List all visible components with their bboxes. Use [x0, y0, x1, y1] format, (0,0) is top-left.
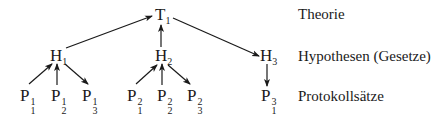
node-p1-3: P31: [261, 87, 276, 115]
node-p3-1: P13: [82, 87, 97, 115]
node-letter: H: [50, 46, 62, 65]
edge-p12-h2: [136, 65, 157, 84]
edge-p11-h1: [29, 64, 52, 84]
node-index: 2: [167, 56, 172, 67]
label-protocols: Protokollsätze: [298, 89, 384, 104]
node-t1: T1: [155, 6, 170, 29]
node-index: 3: [272, 56, 277, 67]
node-index: 1: [165, 15, 170, 26]
node-p2-2: P22: [157, 87, 172, 115]
node-letter: T: [155, 5, 165, 24]
node-p1-2: P21: [127, 87, 142, 115]
node-sub: 3: [197, 106, 202, 115]
node-p1-1: P11: [20, 87, 35, 115]
edge-t1-h3: [173, 18, 259, 56]
node-sub: 2: [61, 106, 66, 115]
node-letter: P: [261, 86, 270, 105]
node-p3-2: P23: [187, 87, 202, 115]
node-letter: P: [187, 86, 196, 105]
node-sub: 3: [92, 106, 97, 115]
edge-h1-p31: [65, 64, 88, 84]
node-letter: P: [20, 86, 29, 105]
node-sub: 2: [167, 106, 172, 115]
node-sub: 1: [137, 106, 142, 115]
node-p2-1: P12: [51, 87, 66, 115]
node-h2: H2: [155, 47, 172, 70]
node-index: 1: [62, 56, 67, 67]
node-letter: P: [82, 86, 91, 105]
label-hypotheses: Hypothesen (Gesetze): [298, 49, 431, 64]
node-letter: H: [155, 46, 167, 65]
node-sub: 1: [271, 106, 276, 115]
node-h1: H1: [50, 47, 67, 70]
label-theory: Theorie: [298, 7, 345, 22]
node-letter: P: [157, 86, 166, 105]
node-letter: H: [260, 46, 272, 65]
edge-h1-t1: [66, 16, 152, 48]
node-letter: P: [127, 86, 136, 105]
node-letter: P: [51, 86, 60, 105]
node-sub: 1: [30, 106, 35, 115]
node-h3: H3: [260, 47, 277, 70]
